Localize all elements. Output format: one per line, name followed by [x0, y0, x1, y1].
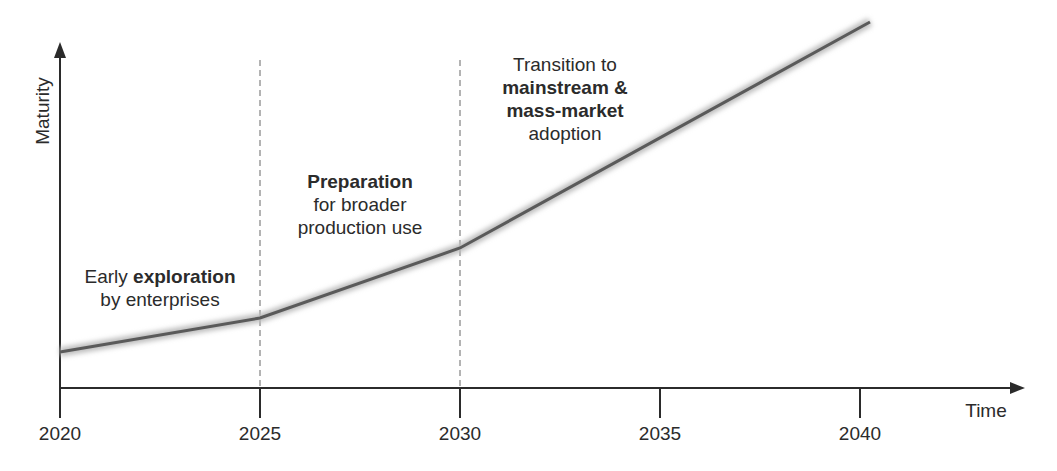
tick-2040: 2040: [839, 423, 881, 445]
x-axis-arrow-icon: [1010, 382, 1025, 394]
tick-2020: 2020: [39, 423, 81, 445]
tick-2030: 2030: [439, 423, 481, 445]
x-axis-label: Time: [956, 399, 1016, 422]
tick-2025: 2025: [239, 423, 281, 445]
tick-2035: 2035: [639, 423, 681, 445]
phase3-annotation: Transition to mainstream & mass-market a…: [462, 53, 668, 145]
y-axis-arrow-icon: [54, 42, 66, 58]
phase1-annotation: Early exploration by enterprises: [62, 265, 258, 311]
phase2-annotation: Preparation for broader production use: [262, 170, 458, 239]
x-ticks: [60, 388, 860, 418]
y-axis-label: Maturity: [31, 71, 54, 151]
